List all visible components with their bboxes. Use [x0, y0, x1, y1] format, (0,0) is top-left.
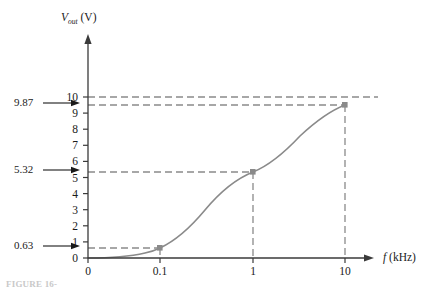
x-tick-label-0: 0: [82, 266, 94, 278]
y-axis-title: Vout (V): [61, 12, 96, 24]
y-tick-label-9: 9: [64, 108, 78, 120]
data-curve: [88, 105, 345, 258]
y-tick-label-5: 5: [64, 173, 78, 185]
y-axis-unit: (V): [81, 11, 97, 23]
annotation-label-9p87: 9.87: [14, 97, 33, 108]
annotation-label-5p32: 5.32: [14, 164, 33, 175]
y-tick-label-1: 1: [64, 237, 78, 249]
x-tick-label-10: 10: [336, 266, 354, 278]
x-axis-symbol: f: [383, 251, 386, 263]
y-tick-label-0: 0: [64, 253, 78, 265]
data-point-marker: [157, 245, 163, 251]
figure-caption: FIGURE 16-: [6, 279, 57, 289]
x-axis-title: f (kHz): [383, 252, 416, 264]
y-axis-subscript: out: [68, 17, 78, 26]
y-tick-label-8: 8: [64, 124, 78, 136]
data-point-marker: [342, 102, 348, 108]
figure-container: Vout (V) f (kHz) 0 1 2 3 4 5 6 7 8 9 10 …: [0, 0, 421, 289]
data-point-marker: [250, 169, 256, 175]
y-axis: [84, 34, 91, 258]
x-axis-ticks: [88, 258, 345, 263]
y-tick-label-7: 7: [64, 140, 78, 152]
x-tick-label-0p1: 0.1: [148, 266, 172, 278]
y-tick-label-2: 2: [64, 221, 78, 233]
y-axis-ticks: [83, 97, 88, 258]
y-tick-label-3: 3: [64, 205, 78, 217]
y-tick-label-10: 10: [60, 92, 78, 104]
x-tick-label-1: 1: [247, 266, 259, 278]
x-axis-unit: (kHz): [389, 251, 416, 263]
annotation-label-0p63: 0.63: [14, 240, 33, 251]
y-axis-symbol: V: [61, 11, 68, 23]
y-tick-label-4: 4: [64, 189, 78, 201]
y-tick-label-6: 6: [64, 156, 78, 168]
